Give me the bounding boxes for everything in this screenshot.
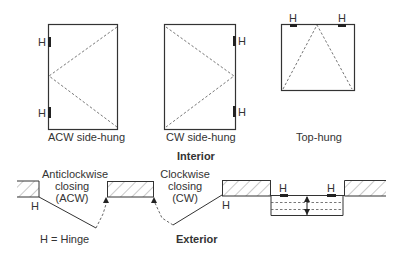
cw-side-hung-label: CW side-hung xyxy=(166,131,236,143)
hinge-legend: H = Hinge xyxy=(40,233,89,245)
acw-window-elevation xyxy=(48,25,118,130)
top-hung-window-elevation xyxy=(282,24,355,91)
hinge-marker: H xyxy=(238,35,246,47)
window-opening-diagram xyxy=(0,0,397,256)
hinge-marker: H xyxy=(289,12,297,24)
hinge-icon xyxy=(48,37,51,47)
acw-closing-label: Anticlockwise closing (ACW) xyxy=(42,168,102,204)
interior-label: Interior xyxy=(177,150,215,162)
hinge-marker: H xyxy=(38,107,46,119)
hinge-marker: H xyxy=(279,182,287,194)
hinge-icon xyxy=(233,36,236,46)
hinge-marker: H xyxy=(338,12,346,24)
hinge-icon xyxy=(48,107,51,118)
hinge-marker: H xyxy=(327,182,335,194)
hinge-marker: H xyxy=(238,106,246,118)
cw-window-elevation xyxy=(165,25,237,130)
hinge-icon xyxy=(338,24,346,27)
hinge-marker: H xyxy=(38,36,46,48)
hinge-marker: H xyxy=(222,199,230,211)
exterior-label: Exterior xyxy=(176,233,218,245)
acw-side-hung-label: ACW side-hung xyxy=(48,131,125,143)
top-hung-label: Top-hung xyxy=(296,131,342,143)
hinge-marker: H xyxy=(31,200,39,212)
hinge-icon xyxy=(290,24,297,27)
cw-closing-label: Clockwise closing (CW) xyxy=(160,168,210,204)
hinge-icon xyxy=(233,106,236,117)
